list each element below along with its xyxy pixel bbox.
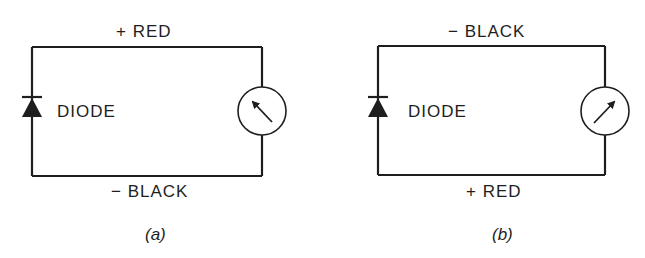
- diode-test-diagram: DIODE + RED − BLACK (a) DIODE − BL: [0, 0, 645, 258]
- bottom-probe-label-b: + RED: [466, 182, 522, 201]
- diode-symbol-icon: [22, 97, 42, 117]
- bottom-probe-label-a: − BLACK: [111, 182, 188, 201]
- caption-a: (a): [145, 225, 166, 244]
- diode-label-b: DIODE: [408, 102, 467, 121]
- ohmmeter-dial-icon: [581, 87, 629, 135]
- panel-b: DIODE − BLACK + RED (b): [368, 22, 629, 244]
- diode-symbol-icon: [368, 97, 388, 117]
- ohmmeter-dial-icon: [238, 87, 286, 135]
- panel-a: DIODE + RED − BLACK (a): [22, 22, 286, 244]
- caption-b: (b): [492, 225, 513, 244]
- top-probe-label-a: + RED: [116, 22, 172, 41]
- top-probe-label-b: − BLACK: [448, 22, 525, 41]
- diode-label-a: DIODE: [57, 102, 116, 121]
